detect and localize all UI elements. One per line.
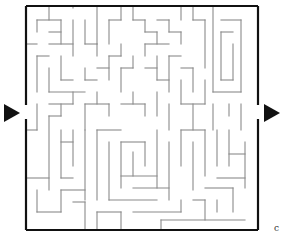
exit-arrow-icon [264,104,280,122]
corner-mark: c [274,224,279,233]
maze-walls [26,6,245,230]
entrance-arrow-icon [4,104,20,122]
maze-puzzle [0,0,283,236]
